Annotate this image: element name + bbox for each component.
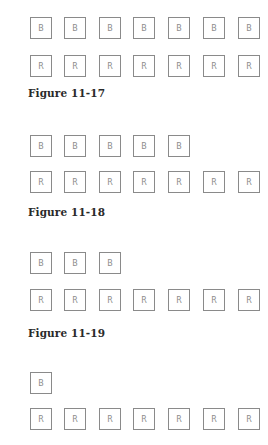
b-box: B [64,252,86,274]
r-box: R [99,408,121,430]
r-box: R [168,171,190,193]
r-box: R [203,55,225,77]
b-box: B [168,17,190,39]
figure-caption: Figure 11-17 [28,87,105,99]
b-box: B [30,252,52,274]
r-box: R [238,289,260,311]
r-box: R [168,289,190,311]
r-box: R [64,408,86,430]
r-box: R [99,171,121,193]
figure-caption: Figure 11-18 [28,206,105,218]
r-box: R [133,408,155,430]
r-box: R [203,171,225,193]
r-box: R [238,408,260,430]
r-box: R [203,408,225,430]
r-box: R [64,289,86,311]
r-box: R [133,171,155,193]
r-box: R [30,55,52,77]
figure-caption: Figure 11-19 [28,327,105,339]
r-box: R [168,55,190,77]
r-box: R [133,289,155,311]
b-box: B [99,252,121,274]
b-box: B [30,372,52,394]
r-box: R [30,408,52,430]
b-box: B [30,135,52,157]
b-box: B [64,17,86,39]
b-box: B [30,17,52,39]
r-box: R [133,55,155,77]
b-box: B [133,135,155,157]
b-box: B [99,135,121,157]
b-box: B [64,135,86,157]
b-box: B [133,17,155,39]
r-box: R [238,171,260,193]
r-box: R [168,408,190,430]
r-box: R [99,289,121,311]
b-box: B [238,17,260,39]
r-box: R [203,289,225,311]
b-box: B [99,17,121,39]
r-box: R [30,289,52,311]
b-box: B [168,135,190,157]
r-box: R [30,171,52,193]
r-box: R [64,55,86,77]
r-box: R [238,55,260,77]
r-box: R [64,171,86,193]
b-box: B [203,17,225,39]
r-box: R [99,55,121,77]
